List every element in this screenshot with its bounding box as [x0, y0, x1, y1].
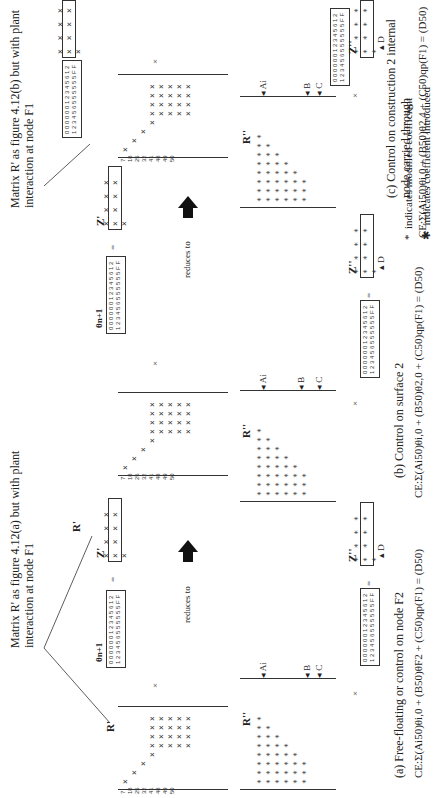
upper-z-vector-1: × × × × × × × × ×: [108, 498, 122, 562]
panel-c-arrow-ai: ◂ Ai: [258, 80, 268, 96]
panel-b-arrow-d: ▴ D: [376, 256, 386, 270]
times-operator-3: ×: [150, 59, 160, 64]
legend-introduced: ✱ indicates coefficient introduced: [420, 87, 433, 240]
times-operator-2: ×: [150, 361, 160, 366]
upper-r-grid-3: × × × ××××× ×××× ×××× ×××× ××××: [122, 82, 194, 154]
equals-operator-2: =: [108, 245, 118, 250]
reduces-to-label-2: reduces to: [182, 241, 192, 278]
panel-a-caption: (a) Free-floating or control on node F2: [392, 592, 407, 778]
legend-modified: * indicates modified coefficient: [402, 98, 414, 240]
panel-a-times: ×: [350, 691, 360, 696]
panel-b-r-label: R'': [240, 424, 252, 438]
upper-r-grid-1: × × × ××××× ×××× ×××× ×××× ××××: [122, 714, 194, 786]
reduces-to-label-1: reduces to: [182, 586, 192, 623]
upper-r-label-2: R': [70, 521, 82, 532]
panel-c-arrow-b: ◂ B: [302, 83, 312, 96]
theta-label: θn+1: [94, 643, 104, 662]
panel-b-theta-vector: 0 0 0 0 0 0 1 2 3 4 5 6 1 21 2 3 4 5 6 5…: [360, 300, 380, 378]
upper-row-labels-2: 718253241484950: [120, 473, 176, 480]
panel-b-arrow-b: ◂ B: [296, 377, 306, 390]
panel-b-equals: =: [364, 293, 374, 298]
panel-a-arrow-c: ◂ C: [314, 665, 324, 678]
panel-a-equals: =: [364, 581, 374, 586]
upper-z-vector-3: × × × × × × × × ×: [62, 0, 76, 58]
panel-b-r-grid: ******** ******* ****** ***** **** ***: [258, 390, 312, 498]
panel-c-times: ×: [350, 93, 360, 98]
theta-vector: 0 0 0 0 0 0 1 2 3 4 5 6 1 21 2 3 4 5 6 5…: [106, 590, 126, 668]
upper-z-vector-2: × × × × × × × × ×: [108, 166, 122, 230]
panel-b-arrow-c: ◂ C: [314, 377, 324, 390]
panel-a-arrow-d: ▴ D: [376, 544, 386, 558]
panel-c-z-vector: * * * * * * * * *: [360, 0, 374, 58]
panel-a-arrow-b: ◂ B: [302, 665, 312, 678]
panel-a-z-vector: * * * * * * * * *: [360, 502, 374, 566]
panel-a-equation: CE:Σ(Ai50)θi,0 + (B50)θF2 + (C50)qp(F1) …: [412, 549, 424, 778]
panel-b-times: ×: [350, 401, 360, 406]
panel-b-z-vector: * * * * * * * * *: [360, 214, 374, 278]
panel-a-theta-vector: 0 0 0 0 0 0 1 2 3 4 5 6 1 21 2 3 4 5 6 5…: [360, 588, 380, 666]
upper-row-labels-3: 718253241484950: [120, 155, 176, 162]
panel-a-r-label: R'': [240, 712, 252, 726]
panel-c-arrow-c: ◂ C: [314, 83, 324, 96]
times-operator: ×: [150, 683, 160, 688]
theta-vector-2: 0 0 0 0 0 0 1 2 3 4 5 6 1 21 2 3 4 5 6 5…: [106, 256, 126, 334]
upper-r-grid-2: × × × ××××× ×××× ×××× ×××× ××××: [122, 400, 194, 472]
theta-vector-3: 0 0 0 0 0 0 1 2 3 4 5 6 1 21 2 3 4 5 6 5…: [62, 60, 82, 138]
panel-b-caption: (b) Control on surface 2: [392, 363, 407, 478]
panel-b-equation: CE:Σ(Ai50)θi,0 + (B50)θ2,0 + (C50)qp(F1)…: [412, 267, 424, 498]
equals-operator: =: [108, 577, 118, 582]
panel-a-arrow-ai: ◂ Ai: [258, 662, 268, 678]
panel-c-r-label: R'': [240, 130, 252, 144]
rotated-document-page: Matrix R' as figure 4.12(a) but with pla…: [0, 0, 438, 798]
upper-row-labels-1: 718253241484950: [120, 787, 176, 794]
panel-c-r-grid: ******** ******* ****** ***** **** ***: [258, 96, 312, 204]
upper-r-label-1: R': [104, 721, 116, 732]
panel-a-r-grid: ******** ******* ****** ***** **** ***: [258, 678, 312, 786]
panel-b-arrow-ai: ◂ Ai: [258, 374, 268, 390]
theta-label-2: θn+1: [94, 309, 104, 328]
